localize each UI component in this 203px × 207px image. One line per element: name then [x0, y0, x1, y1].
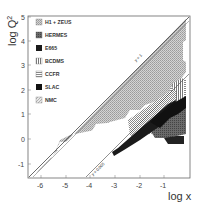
y-tick: 4	[21, 38, 25, 45]
y-tick: 1	[21, 111, 25, 118]
x-tick: -4	[86, 182, 92, 189]
y-tick: 2	[21, 87, 25, 94]
legend-swatch-hermes	[36, 32, 42, 38]
legend: H1 + ZEUS HERMES E665 BCDMS CCFR SLAC NM…	[36, 19, 72, 103]
legend-swatch-bcdms	[36, 58, 42, 64]
x-tick: -2	[136, 182, 142, 189]
legend-label: E665	[45, 45, 57, 51]
x-tick: -1	[160, 182, 166, 189]
legend-swatch-h1-zeus	[36, 19, 42, 25]
y-axis	[28, 17, 31, 164]
x-tick: -6	[37, 182, 43, 189]
legend-label: BCDMS	[45, 58, 65, 64]
legend-swatch-e665	[36, 45, 42, 51]
y-axis-label: log Q2	[6, 16, 18, 46]
legend-label: SLAC	[45, 84, 59, 90]
legend-swatch-ccfr	[36, 71, 42, 77]
legend-label: CCFR	[45, 71, 60, 77]
legend-label: H1 + ZEUS	[45, 19, 72, 25]
y-tick: -1	[18, 161, 24, 168]
legend-label: NMC	[45, 97, 57, 103]
y-tick: 5	[21, 14, 25, 21]
x-axis-label: log x	[168, 190, 192, 202]
legend-swatch-nmc	[36, 97, 42, 103]
y-tick: 0	[21, 136, 25, 143]
legend-label: HERMES	[45, 32, 68, 38]
x-tick: -5	[62, 182, 68, 189]
kinematic-plane-chart: y = 1 y = 0.005 -6 -5 -4 -3 -2 -1 log x …	[0, 0, 203, 207]
svg-text:log Q2: log Q2	[6, 16, 18, 46]
legend-swatch-slac	[36, 84, 42, 90]
x-tick: -3	[111, 182, 117, 189]
y1-label: y = 1	[133, 52, 143, 62]
y-tick: 3	[21, 62, 25, 69]
